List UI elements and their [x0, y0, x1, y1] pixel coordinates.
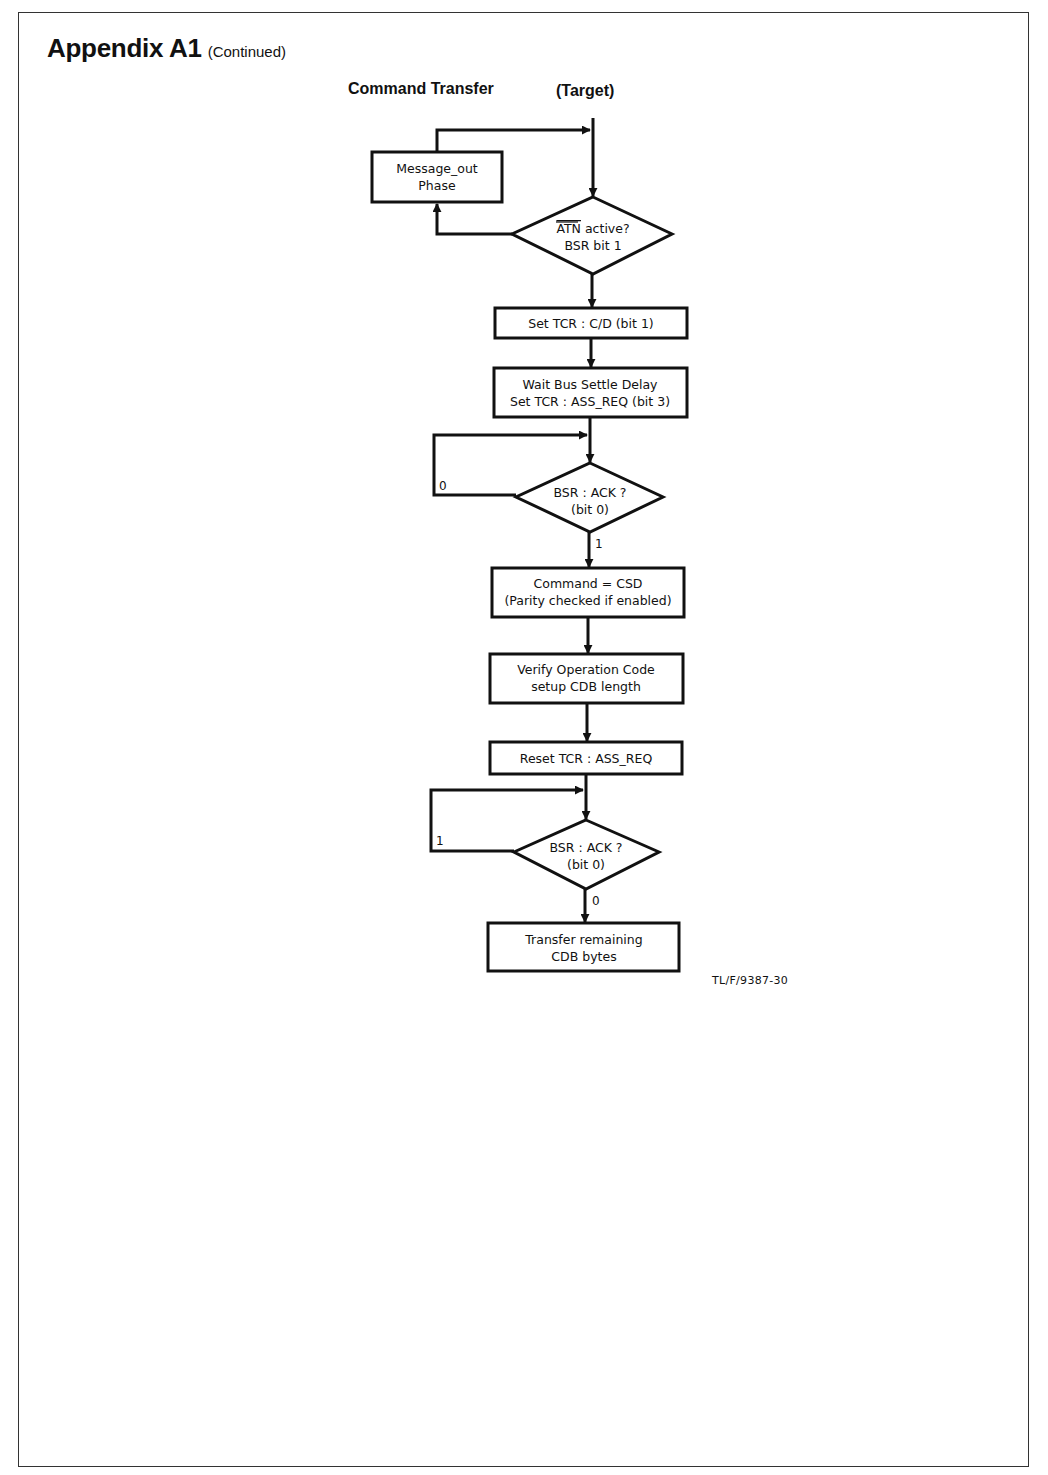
atn-check-line2: BSR bit 1 — [564, 238, 621, 253]
ack1-loop-label: 0 — [439, 479, 447, 493]
ack-check-2-line2: (bit 0) — [567, 857, 605, 872]
transfer-cdb-line1: Transfer remaining — [524, 932, 642, 947]
ack1-next-label: 1 — [595, 537, 603, 551]
reset-tcr-text: Reset TCR : ASS_REQ — [520, 751, 653, 766]
ack-check-2-line1: BSR : ACK ? — [550, 840, 623, 855]
node-wait-bus — [494, 368, 687, 417]
command-csd-line2: (Parity checked if enabled) — [504, 593, 671, 608]
verify-opcode-line1: Verify Operation Code — [517, 662, 655, 677]
figure-reference: TL/F/9387-30 — [712, 974, 788, 987]
node-message-out — [372, 152, 502, 202]
wait-bus-line2: Set TCR : ASS_REQ (bit 3) — [510, 394, 670, 409]
atn-suffix: active? — [581, 221, 630, 236]
message-out-return-connector — [437, 130, 590, 152]
message-out-line1: Message_out — [396, 161, 478, 176]
ack2-next-label: 0 — [592, 894, 600, 908]
ack2-loop-label: 1 — [436, 834, 444, 848]
atn-yes-connector — [437, 204, 512, 234]
ack-check-1-line1: BSR : ACK ? — [554, 485, 627, 500]
atn-check-line1: ATN active? — [556, 221, 629, 236]
atn-overline-text: ATN — [556, 221, 581, 236]
flowchart: Message_out Phase ATN active? BSR bit 1 … — [0, 0, 1048, 1475]
command-csd-line1: Command = CSD — [534, 576, 643, 591]
wait-bus-line1: Wait Bus Settle Delay — [523, 377, 659, 392]
set-tcr-cd-text: Set TCR : C/D (bit 1) — [528, 316, 654, 331]
verify-opcode-line2: setup CDB length — [531, 679, 641, 694]
ack-check-1-line2: (bit 0) — [571, 502, 609, 517]
message-out-line2: Phase — [418, 178, 456, 193]
transfer-cdb-line2: CDB bytes — [551, 949, 616, 964]
